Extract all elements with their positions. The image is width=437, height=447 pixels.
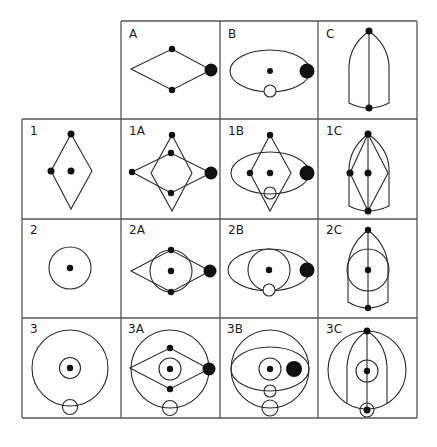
cell-label: 3A [128,322,145,336]
left-dot [247,170,253,176]
cell-3B: 3B [227,322,309,416]
cell-label: 1A [129,124,146,138]
large-dot [300,64,315,79]
cell-label: 2B [228,223,244,237]
center-dot [67,365,73,371]
cell-label: 1B [228,124,244,138]
top-dot [365,227,371,233]
vertex-dot [168,247,174,253]
cell-3: 3 [30,322,108,415]
center-dot [365,170,372,177]
large-dot [205,64,218,77]
center-dot [267,68,273,74]
cell-label: 2A [129,223,146,237]
large-dot [286,361,302,377]
cell-C: C [326,27,389,112]
cell-label: 3C [326,322,342,336]
left-dot [48,168,55,175]
rhombus-horizontal [131,49,211,90]
large-dot [300,166,315,181]
left-dot [129,169,135,175]
rhombus-horizontal [132,153,211,193]
top-dot [68,131,75,138]
cell-3C: 3C [326,322,406,417]
center-dot [167,366,173,372]
bottom-dot [365,305,371,311]
large-dot [204,265,217,278]
top-dot [267,132,273,138]
cell-3A: 3A [128,322,216,416]
vertex-dot [168,190,174,196]
cell-label: 3B [227,322,243,336]
cell-label: 3 [30,322,38,336]
open-circle [263,284,275,296]
cell-label: 2C [326,223,342,237]
large-dot [203,363,216,376]
open-circle [63,400,78,415]
center-dot [267,170,273,176]
large-dot [300,263,315,278]
vertex-dot [168,150,174,156]
cell-2: 2 [30,223,91,289]
cell-2C: 2C [326,223,389,311]
cell-2A: 2A [129,223,217,295]
large-dot [205,167,218,180]
cell-label: 1 [30,124,38,138]
top-dot [169,132,175,138]
cell-label: C [326,27,334,41]
bottom-dot [365,208,372,215]
cell-label: A [129,27,138,41]
left-dot [347,170,354,177]
cell-1A: 1A [129,124,218,211]
bottom-dot [364,407,371,414]
open-circle [264,187,276,199]
grid-lines [22,21,417,418]
cell-label: B [228,27,236,41]
vertex-dot [168,289,174,295]
cell-1C: 1C [326,124,389,215]
composition-grid-figure: A B C 1 1A 1 [0,0,437,447]
center-dot [168,268,174,274]
cell-label: 2 [30,223,38,237]
center-dot [68,168,75,175]
top-dot [364,328,371,335]
vertex-dot [169,46,175,52]
cell-label: 1C [326,124,342,138]
cell-1: 1 [30,124,92,209]
vertex-dot [167,345,173,351]
center-dot [267,366,273,372]
center-dot [67,265,73,271]
cell-2B: 2B [228,223,315,296]
open-circle [264,85,276,97]
rhombus-vertical [151,135,192,211]
cell-B: B [228,27,315,97]
center-dot [365,267,371,273]
cell-A: A [129,27,218,93]
center-dot [364,368,370,374]
top-dot [365,131,372,138]
vertex-dot [169,87,175,93]
center-dot [266,267,272,273]
cell-1B: 1B [228,124,315,211]
top-dot [366,28,373,35]
bottom-dot [366,105,373,112]
vertex-dot [167,386,173,392]
